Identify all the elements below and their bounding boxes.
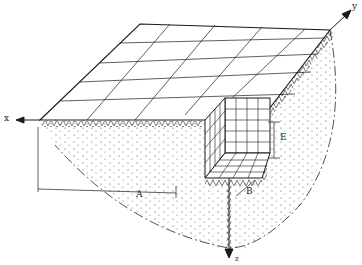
dimension-label-e: E — [280, 133, 287, 142]
x-axis-label: x — [4, 114, 9, 123]
excavation-cube — [205, 98, 270, 178]
y-axis-label: y — [352, 2, 357, 11]
z-axis-arrow-icon — [225, 249, 233, 258]
x-axis-arrow-icon — [16, 117, 24, 123]
diagram-drawing — [0, 0, 362, 265]
dimension-label-a: A — [136, 190, 143, 199]
dimension-label-b: B — [246, 187, 253, 196]
excavation-diagram: x y z A B E — [0, 0, 362, 265]
z-axis-label: z — [235, 256, 239, 263]
